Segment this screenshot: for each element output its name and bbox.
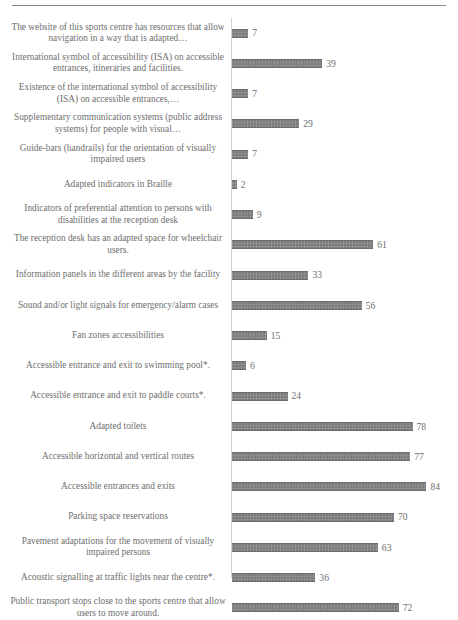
- category-label: Accessible entrance and exit to swimming…: [10, 360, 226, 371]
- bar-row: Parking space reservations70: [0, 502, 458, 532]
- bar-value-label: 33: [312, 270, 322, 280]
- bar-group: 63: [232, 532, 391, 562]
- bar-group: 9: [232, 200, 262, 230]
- bar-value-label: 29: [303, 119, 313, 129]
- bar: [232, 361, 246, 370]
- top-divider: [12, 5, 446, 6]
- bar-value-label: 77: [414, 452, 424, 462]
- category-label: Guide-bars (handrails) for the orientati…: [10, 143, 226, 166]
- bar-group: 36: [232, 563, 329, 593]
- bar: [232, 210, 253, 219]
- bar-row: Supplementary communication systems (pub…: [0, 109, 458, 139]
- category-label: The reception desk has an adapted space …: [10, 233, 226, 256]
- bar-group: 56: [232, 290, 375, 320]
- category-label: Indicators of preferential attention to …: [10, 203, 226, 226]
- bar: [232, 150, 248, 159]
- category-label: The website of this sports centre has re…: [10, 22, 226, 45]
- bar-group: 7: [232, 79, 257, 109]
- bar-row: International symbol of accessibility (I…: [0, 48, 458, 78]
- bar-row: Public transport stops close to the spor…: [0, 593, 458, 620]
- bar-value-label: 39: [326, 59, 336, 69]
- category-label: Parking space reservations: [10, 511, 226, 522]
- plot-area: The website of this sports centre has re…: [0, 18, 458, 584]
- bar-value-label: 36: [319, 573, 329, 583]
- bar-value-label: 78: [417, 422, 427, 432]
- bar: [232, 180, 237, 189]
- bar-value-label: 9: [257, 210, 262, 220]
- category-label: Adapted indicators in Braille: [10, 179, 226, 190]
- bar-group: 6: [232, 351, 255, 381]
- bar-value-label: 56: [366, 301, 376, 311]
- bar: [232, 271, 308, 280]
- bar: [232, 89, 248, 98]
- bar-group: 39: [232, 48, 336, 78]
- category-label: Adapted toilets: [10, 421, 226, 432]
- bar-row: Information panels in the different area…: [0, 260, 458, 290]
- bar: [232, 603, 399, 612]
- bar-row: Accessible entrances and exits84: [0, 472, 458, 502]
- bar-row: Adapted toilets78: [0, 411, 458, 441]
- bar-row: Guide-bars (handrails) for the orientati…: [0, 139, 458, 169]
- category-label: Sound and/or light signals for emergency…: [10, 300, 226, 311]
- bar: [232, 573, 315, 582]
- bar: [232, 331, 267, 340]
- bar: [232, 240, 373, 249]
- bar-group: 15: [232, 321, 280, 351]
- category-label: Accessible horizontal and vertical route…: [10, 451, 226, 462]
- bar: [232, 422, 413, 431]
- bar-group: 7: [232, 139, 257, 169]
- bar: [232, 543, 378, 552]
- bar-group: 7: [232, 18, 257, 48]
- bar-row: Sound and/or light signals for emergency…: [0, 290, 458, 320]
- bar-value-label: 70: [398, 512, 408, 522]
- bar: [232, 29, 248, 38]
- bar-row: The reception desk has an adapted space …: [0, 230, 458, 260]
- category-label: Accessible entrances and exits: [10, 481, 226, 492]
- bar: [232, 301, 362, 310]
- bar-value-label: 72: [403, 603, 413, 613]
- bar: [232, 482, 426, 491]
- bar-group: 2: [232, 169, 245, 199]
- category-label: Acoustic signalling at traffic lights ne…: [10, 572, 226, 583]
- bar-group: 29: [232, 109, 313, 139]
- bar-row: Indicators of preferential attention to …: [0, 200, 458, 230]
- bar-group: 78: [232, 411, 426, 441]
- category-label: Existence of the international symbol of…: [10, 82, 226, 105]
- bar-value-label: 61: [377, 240, 387, 250]
- bar-row: Existence of the international symbol of…: [0, 79, 458, 109]
- category-label: Accessible entrance and exit to paddle c…: [10, 390, 226, 401]
- bar: [232, 392, 288, 401]
- bar: [232, 119, 299, 128]
- bar-row: Accessible horizontal and vertical route…: [0, 442, 458, 472]
- bar-value-label: 24: [292, 391, 302, 401]
- bar-row: Pavement adaptations for the movement of…: [0, 532, 458, 562]
- bar-value-label: 84: [430, 482, 440, 492]
- bar-value-label: 15: [271, 331, 281, 341]
- bar-row: Adapted indicators in Braille2: [0, 169, 458, 199]
- bar-value-label: 7: [252, 28, 257, 38]
- category-label: Information panels in the different area…: [10, 269, 226, 280]
- bar: [232, 59, 322, 68]
- bar-group: 70: [232, 502, 408, 532]
- bar-group: 61: [232, 230, 387, 260]
- bar-row: Accessible entrance and exit to paddle c…: [0, 381, 458, 411]
- bar-group: 33: [232, 260, 322, 290]
- bar-value-label: 7: [252, 89, 257, 99]
- bar-value-label: 2: [241, 180, 246, 190]
- category-label: Public transport stops close to the spor…: [10, 596, 226, 619]
- bar-row: Accessible entrance and exit to swimming…: [0, 351, 458, 381]
- bar-group: 24: [232, 381, 301, 411]
- bar-value-label: 63: [382, 543, 392, 553]
- bar: [232, 513, 394, 522]
- bar-row: Fan zones accessibilities15: [0, 321, 458, 351]
- bar-value-label: 6: [250, 361, 255, 371]
- bar-row: The website of this sports centre has re…: [0, 18, 458, 48]
- bar-row: Acoustic signalling at traffic lights ne…: [0, 563, 458, 593]
- bar-group: 77: [232, 442, 424, 472]
- bar-value-label: 7: [252, 149, 257, 159]
- category-label: Pavement adaptations for the movement of…: [10, 536, 226, 559]
- bar: [232, 452, 410, 461]
- bar-group: 72: [232, 593, 412, 620]
- category-label: Fan zones accessibilities: [10, 330, 226, 341]
